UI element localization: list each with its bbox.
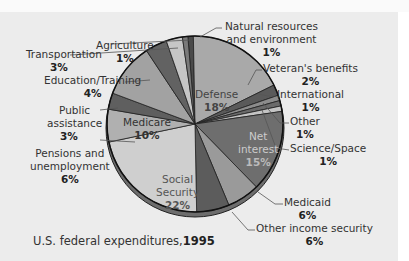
label-transportation-pct: 3% (50, 61, 68, 74)
label-defense: Defense18% (195, 88, 238, 114)
label-medicaid: Medicaid6% (284, 196, 331, 222)
label-public-assistance: Publicassistance (47, 104, 102, 130)
label-medicare: Medicare10% (123, 116, 171, 142)
label-net-interest: Netinterest15% (238, 130, 278, 169)
label-agriculture: Agriculture1% (96, 39, 154, 65)
label-veterans-benefits: Veteran's benefits2% (263, 62, 358, 88)
label-education-training: Education/Training4% (44, 74, 141, 100)
label-natural-resources: Natural resourcesand environment1% (225, 20, 318, 59)
label-other-income-security: Other income security6% (256, 222, 373, 248)
leader-line (232, 212, 255, 230)
label-international: International1% (277, 88, 344, 114)
label-social-security: SocialSecurity22% (156, 173, 199, 212)
label-pensions-unemployment: Pensions andunemployment6% (30, 147, 110, 186)
label-other: Other1% (290, 115, 320, 141)
label-science-space: Science/Space1% (290, 142, 366, 168)
label-public-assistance-pct: 3% (60, 130, 78, 143)
chart-caption: U.S. federal expenditures,1995 (33, 234, 215, 248)
label-transportation: Transportation (26, 48, 102, 61)
leader-line (258, 192, 283, 204)
